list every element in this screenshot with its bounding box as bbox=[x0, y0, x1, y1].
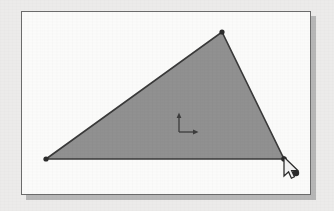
drawing-surface[interactable] bbox=[22, 12, 311, 195]
drawing-canvas[interactable]: Gray filled triangle on a white drawing … bbox=[21, 11, 311, 195]
vertex-handle-top[interactable] bbox=[219, 29, 224, 34]
page-root: Gray filled triangle on a white drawing … bbox=[0, 0, 334, 211]
vertex-handle-left[interactable] bbox=[43, 156, 48, 161]
triangle-shape[interactable] bbox=[46, 32, 284, 159]
